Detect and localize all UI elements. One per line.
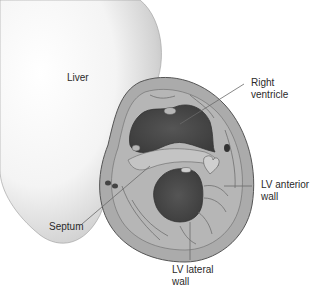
label-lv-anterior-line1: LV anterior xyxy=(261,179,309,191)
label-lv-lateral-line1: LV lateral xyxy=(172,264,214,276)
diagram-graphic xyxy=(0,0,322,295)
label-liver: Liver xyxy=(67,72,89,84)
label-right-ventricle-line2: ventricle xyxy=(251,89,288,101)
heart-diagram: Liver Right ventricle LV anterior wall S… xyxy=(0,0,322,295)
label-lv-anterior-line2: wall xyxy=(261,191,278,203)
label-lv-lateral-line2: wall xyxy=(172,276,189,288)
heart-cross-section xyxy=(100,77,254,262)
label-right-ventricle-line1: Right xyxy=(251,77,274,89)
label-septum: Septum xyxy=(49,221,83,233)
